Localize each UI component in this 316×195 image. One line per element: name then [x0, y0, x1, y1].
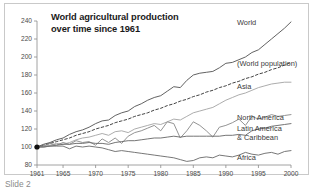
- x-tick-label: 1965: [56, 170, 71, 176]
- series-label-world: World: [237, 19, 256, 28]
- y-tick-label: 180: [21, 71, 32, 78]
- series-label-world-population: (World population): [237, 60, 297, 69]
- x-tick-label: 1990: [219, 170, 234, 176]
- x-tick-label: 1961: [30, 170, 45, 176]
- y-axis-ticks: 80100120140160180200220240: [21, 17, 37, 168]
- y-tick-label: 220: [21, 35, 32, 42]
- chart-title: World agricultural production over time …: [51, 12, 211, 35]
- chart-title-line-2: over time since 1961: [51, 24, 211, 36]
- y-tick-label: 200: [21, 53, 32, 60]
- x-tick-label: 1970: [88, 170, 103, 176]
- x-tick-label: 1985: [186, 170, 201, 176]
- y-tick-label: 240: [21, 17, 32, 24]
- slide-caption: Slide 2: [5, 179, 31, 189]
- series-label-asia: Asia: [237, 83, 251, 92]
- x-tick-label: 1995: [251, 170, 266, 176]
- series-label-latin-america: Latin America & Caribbean: [237, 125, 282, 142]
- x-tick-label: 1980: [153, 170, 168, 176]
- x-tick-label: 1975: [121, 170, 136, 176]
- slide-frame: 80100120140160180200220240 1961196519701…: [4, 3, 309, 175]
- y-tick-label: 80: [25, 161, 33, 168]
- series-label-africa: Africa: [237, 154, 256, 163]
- origin-marker-dot: [34, 144, 39, 149]
- y-tick-label: 160: [21, 89, 32, 96]
- x-axis-ticks: 196119651970197519801985199019952000: [30, 165, 299, 176]
- y-tick-label: 140: [21, 107, 32, 114]
- chart-title-line-1: World agricultural production: [51, 12, 211, 24]
- series-label-north-america: North America: [237, 114, 284, 123]
- series-label-latin-america-line-2: & Caribbean: [237, 134, 282, 143]
- y-tick-label: 120: [21, 125, 32, 132]
- y-tick-label: 100: [21, 143, 32, 150]
- x-tick-label: 2000: [284, 170, 299, 176]
